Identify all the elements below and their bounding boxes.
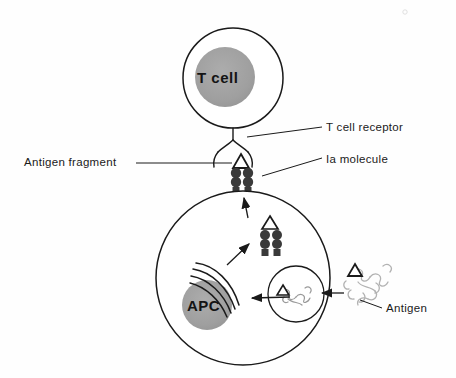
t-cell-receptor-icon <box>214 128 253 167</box>
scan-artifact <box>403 10 407 14</box>
ia-molecule-label: Ia molecule <box>326 153 388 165</box>
t-cell-receptor-label: T cell receptor <box>326 121 403 133</box>
diagram-canvas <box>0 0 456 378</box>
antigen-fragment-label: Antigen fragment <box>24 156 116 168</box>
apc-label: APC <box>187 297 220 314</box>
endosome-vesicle <box>268 266 324 322</box>
t-cell-label: T cell <box>197 69 238 86</box>
antigen-presentation-diagram: T cell APC T cell receptor Ia molecule A… <box>0 0 456 378</box>
antigen-label: Antigen <box>386 302 427 314</box>
t-cell-receptor-leader <box>247 127 322 137</box>
antigen-leader <box>360 300 382 308</box>
ia-molecule-leader <box>262 158 322 176</box>
ia-molecule-surface <box>231 154 253 194</box>
antigen-fragment-triangle <box>233 154 249 168</box>
